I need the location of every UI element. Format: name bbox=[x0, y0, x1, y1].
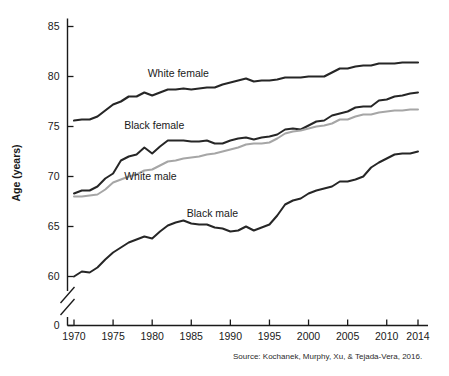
y-tick-label: 60 bbox=[36, 270, 60, 282]
y-axis-title: Age (years) bbox=[10, 118, 22, 228]
y-tick-label: 0 bbox=[36, 319, 60, 331]
y-tick-label: 70 bbox=[36, 170, 60, 182]
y-tick-label: 65 bbox=[36, 220, 60, 232]
life-expectancy-line-chart: Age (years) 8580757065600 19701975198019… bbox=[0, 0, 449, 376]
x-tick-label: 2010 bbox=[370, 330, 404, 342]
x-tick-label: 1985 bbox=[174, 330, 208, 342]
series-label-white-male: White male bbox=[124, 170, 177, 182]
series-label-black-male: Black male bbox=[187, 207, 238, 219]
chart-canvas bbox=[0, 0, 449, 376]
x-tick-label: 2000 bbox=[292, 330, 326, 342]
x-tick-label: 1975 bbox=[96, 330, 130, 342]
series-line-white-female bbox=[74, 63, 418, 121]
series-label-white-female: White female bbox=[148, 67, 209, 79]
x-tick-label: 1970 bbox=[57, 330, 91, 342]
y-tick-label: 85 bbox=[36, 20, 60, 32]
y-tick-label: 75 bbox=[36, 120, 60, 132]
x-tick-label: 2005 bbox=[331, 330, 365, 342]
x-tick-label: 1990 bbox=[213, 330, 247, 342]
y-tick-label: 80 bbox=[36, 70, 60, 82]
x-tick-label: 2014 bbox=[401, 330, 435, 342]
source-note: Source: Kochanek, Murphy, Xu, & Tejada-V… bbox=[233, 352, 422, 361]
x-tick-label: 1980 bbox=[135, 330, 169, 342]
series-label-black-female: Black female bbox=[124, 119, 184, 131]
x-tick-label: 1995 bbox=[252, 330, 286, 342]
